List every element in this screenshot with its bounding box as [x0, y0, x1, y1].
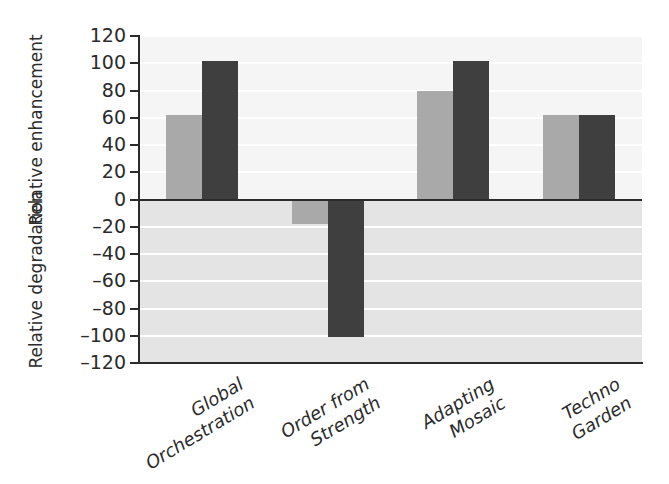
x-axis-line	[138, 362, 643, 364]
bar	[166, 115, 202, 199]
gridline	[139, 35, 642, 37]
y-axis-tick-label: –100	[6, 326, 126, 345]
y-axis-tick-label: –80	[6, 299, 126, 318]
gridline	[139, 308, 642, 310]
y-axis-tick-label: –40	[6, 244, 126, 263]
y-axis-tick-label: 100	[6, 53, 126, 72]
bar	[328, 200, 364, 338]
y-axis-tick-label: –120	[6, 353, 126, 372]
y-axis-tick-label: 40	[6, 135, 126, 154]
y-axis-tick-label: 120	[6, 26, 126, 45]
bar	[417, 91, 453, 200]
bar	[543, 115, 579, 199]
gridline	[139, 226, 642, 228]
gridline	[139, 280, 642, 282]
y-axis-tick-label: –60	[6, 271, 126, 290]
y-axis-tick-label: 20	[6, 162, 126, 181]
y-axis-tick-label: 60	[6, 108, 126, 127]
zero-baseline	[139, 199, 642, 201]
gridline	[139, 335, 642, 337]
y-axis-tick-label: 0	[6, 190, 126, 209]
y-axis-tick-label: 80	[6, 81, 126, 100]
y-axis-tick-label: –20	[6, 217, 126, 236]
bar-chart-figure: Relative enhancement Relative degradatio…	[0, 0, 669, 484]
bar	[579, 115, 615, 199]
bar	[202, 61, 238, 200]
plot-area	[139, 36, 642, 363]
y-axis-line	[138, 35, 140, 364]
bar	[453, 61, 489, 200]
gridline	[139, 253, 642, 255]
bar	[292, 200, 328, 225]
